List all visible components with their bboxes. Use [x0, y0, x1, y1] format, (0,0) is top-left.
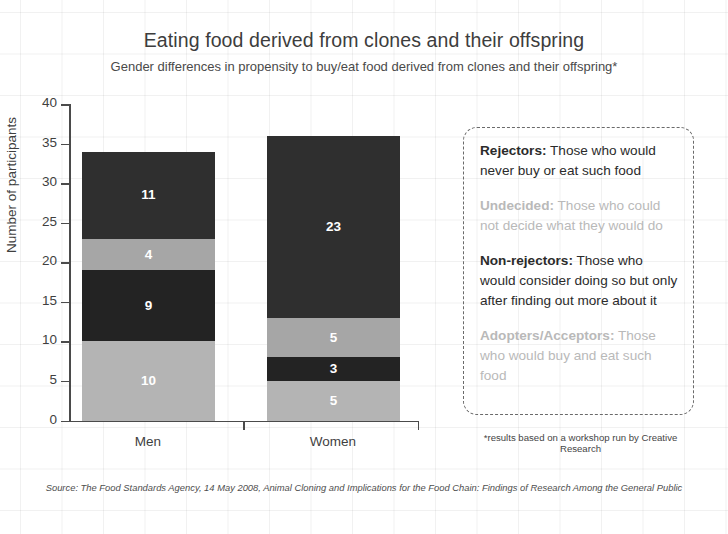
y-axis-tick-label: 30	[42, 174, 57, 189]
bar-stack-women[interactable]: 53523	[267, 136, 400, 421]
y-axis-tick: 10	[61, 341, 69, 343]
bar-segment[interactable]: 9	[82, 270, 215, 341]
bar-segment-value: 9	[145, 299, 153, 313]
legend-entry-term: Non-rejectors:	[480, 253, 573, 268]
y-axis-tick-label: 35	[42, 135, 57, 150]
bar-segment-value: 11	[141, 188, 155, 202]
y-axis-tick-label: 10	[42, 332, 57, 347]
legend-entry: Adopters/Acceptors: Those who would buy …	[480, 326, 678, 386]
page-title: Eating food derived from clones and thei…	[0, 29, 728, 52]
legend-entry: Rejectors: Those who would never buy or …	[480, 141, 678, 181]
x-axis-tick-right	[418, 421, 420, 430]
bar-segment-value: 23	[326, 220, 341, 234]
bar-segment[interactable]: 11	[82, 152, 215, 239]
y-axis-tick: 25	[61, 223, 69, 225]
bar-segment[interactable]: 5	[267, 318, 400, 358]
bar-segment-value: 4	[145, 248, 153, 262]
footnote: *results based on a workshop run by Crea…	[463, 432, 698, 454]
legend-entry-term: Rejectors:	[480, 143, 546, 158]
bar-segment[interactable]: 23	[267, 136, 400, 318]
bar-segment[interactable]: 3	[267, 357, 400, 381]
bar-segment-value: 5	[330, 331, 338, 345]
y-axis-tick-label: 40	[42, 95, 57, 110]
bar-stack-men[interactable]: 109411	[82, 152, 215, 421]
y-axis-tick-label: 0	[49, 412, 57, 427]
source-note: Source: The Food Standards Agency, 14 Ma…	[0, 482, 728, 493]
x-axis-label-men: Men	[68, 434, 228, 449]
y-axis-tick: 30	[61, 183, 69, 185]
bar-segment[interactable]: 5	[267, 381, 400, 421]
y-axis-tick: 20	[61, 262, 69, 264]
y-axis-tick: 5	[61, 381, 69, 383]
y-axis-tick: 35	[61, 144, 69, 146]
legend-entry: Undecided: Those who could not decide wh…	[480, 196, 678, 236]
legend: Rejectors: Those who would never buy or …	[463, 127, 694, 415]
bar-segment[interactable]: 4	[82, 239, 215, 271]
bar-segment-value: 10	[141, 374, 156, 388]
y-axis-tick-label: 20	[42, 253, 57, 268]
legend-entry: Non-rejectors: Those who would consider …	[480, 251, 678, 311]
y-axis-tick-label: 15	[42, 293, 57, 308]
x-axis-tick-middle	[243, 421, 245, 430]
y-axis-tick-label: 25	[42, 214, 57, 229]
y-axis-title: Number of participants	[4, 117, 19, 253]
y-axis-tick: 0	[61, 421, 69, 423]
x-axis-label-women: Women	[253, 434, 413, 449]
legend-entry-term: Undecided:	[480, 198, 554, 213]
bar-segment[interactable]: 10	[82, 341, 215, 420]
bar-segment-value: 5	[330, 394, 338, 408]
legend-entry-term: Adopters/Acceptors:	[480, 328, 614, 343]
y-axis-tick-label: 5	[49, 372, 57, 387]
y-axis-tick: 40	[61, 104, 69, 106]
bar-segment-value: 3	[330, 362, 338, 376]
y-axis-tick: 15	[61, 302, 69, 304]
y-axis-line	[69, 104, 71, 422]
chart-subtitle: Gender differences in propensity to buy/…	[0, 59, 728, 74]
plot-area: 0510152025303540 109411 53523 Men Women	[69, 104, 419, 422]
